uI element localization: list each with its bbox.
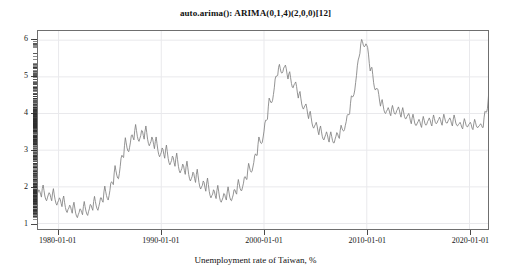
- y-axis-tick-label: 4: [10, 108, 28, 117]
- plot-area: [37, 30, 489, 230]
- y-axis-tick-label: 6: [10, 34, 28, 43]
- x-axis-tick-label: 1990-01-01: [142, 236, 179, 245]
- x-axis-tick-label: 2000-01-01: [245, 236, 282, 245]
- y-axis-tick-label: 3: [10, 145, 28, 154]
- x-axis-major-tick: [161, 230, 162, 235]
- data-series-line: [38, 31, 488, 229]
- y-axis-label-group: 123456: [8, 0, 28, 280]
- chart-title: auto.arima(): ARIMA(0,1,4)(2,0,0)[12]: [0, 8, 511, 18]
- x-axis-tick-label: 2010-01-01: [349, 236, 386, 245]
- x-axis-tick-label: 1980-01-01: [39, 236, 76, 245]
- y-axis-tick-label: 2: [10, 182, 28, 191]
- x-axis-major-tick: [264, 230, 265, 235]
- x-axis-major-tick: [58, 230, 59, 235]
- x-axis-major-tick: [470, 230, 471, 235]
- y-axis-tick-label: 1: [10, 219, 28, 228]
- y-axis-tick-label: 5: [10, 71, 28, 80]
- x-axis-major-tick: [367, 230, 368, 235]
- x-axis-title: Unemployment rate of Taiwan, %: [0, 255, 511, 265]
- x-axis-tick-label: 2020-01-01: [452, 236, 489, 245]
- arima-forecast-figure: auto.arima(): ARIMA(0,1,4)(2,0,0)[12] 12…: [0, 0, 511, 280]
